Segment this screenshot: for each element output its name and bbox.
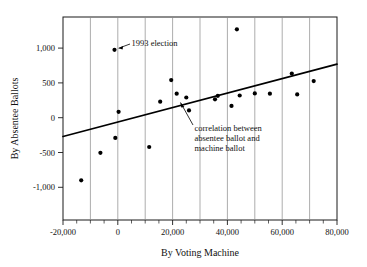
x-axis-title: By Voting Machine [161, 247, 240, 258]
y-axis-title: By Absentee Ballots [9, 78, 20, 160]
y-tick-label-0: 0 [51, 113, 55, 123]
chart-canvas: 1,000 500 0 -500 -1,000 -20,000 0 20,000… [0, 0, 367, 267]
x-axis-minor-ticks [77, 220, 324, 224]
x-tick-label-80000: 80,000 [325, 227, 348, 237]
data-point [158, 100, 162, 104]
data-point [98, 151, 102, 155]
x-tick-label-60000: 60,000 [271, 227, 294, 237]
election-annotation: 1993 election [119, 38, 179, 50]
y-tick-label-minus-1000: -1,000 [33, 182, 55, 192]
data-point [117, 110, 121, 114]
y-axis-ticks [58, 48, 63, 187]
y-tick-label-minus-500: -500 [39, 148, 55, 158]
x-tick-label-0: 0 [116, 227, 120, 237]
election-annotation-label: 1993 election [132, 38, 179, 48]
data-point [184, 95, 188, 99]
data-point [268, 92, 272, 96]
data-point [253, 91, 257, 95]
data-points-group [79, 27, 316, 182]
correlation-annotation-line-1: correlation between [195, 123, 263, 133]
data-point [175, 92, 179, 96]
data-point [113, 136, 117, 140]
data-point [79, 178, 83, 182]
y-tick-label-500: 500 [42, 78, 55, 88]
data-point [295, 92, 299, 96]
y-tick-labels: 1,000 500 0 -500 -1,000 [33, 43, 55, 192]
data-point [169, 78, 173, 82]
x-tick-labels: -20,000 0 20,000 40,000 60,000 80,000 [50, 227, 349, 237]
scatter-plot-figure: 1,000 500 0 -500 -1,000 -20,000 0 20,000… [0, 0, 367, 267]
data-point [229, 104, 233, 108]
data-point [235, 27, 239, 31]
data-point [216, 94, 220, 98]
y-tick-label-1000: 1,000 [36, 43, 55, 53]
x-tick-label-minus-20000: -20,000 [50, 227, 76, 237]
data-point [147, 145, 151, 149]
data-point [312, 79, 316, 83]
correlation-annotation-line-2: absentee ballot and [195, 133, 261, 143]
data-point [213, 97, 217, 101]
x-tick-label-40000: 40,000 [216, 227, 239, 237]
data-point-1993-election [112, 48, 116, 52]
correlation-annotation-line-3: machine ballot [195, 143, 246, 153]
data-point [187, 108, 191, 112]
correlation-annotation: correlation between absentee ballot and … [181, 103, 263, 153]
data-point [290, 71, 294, 75]
vertical-gridlines [90, 17, 309, 220]
data-point [238, 93, 242, 97]
x-tick-label-20000: 20,000 [161, 227, 184, 237]
